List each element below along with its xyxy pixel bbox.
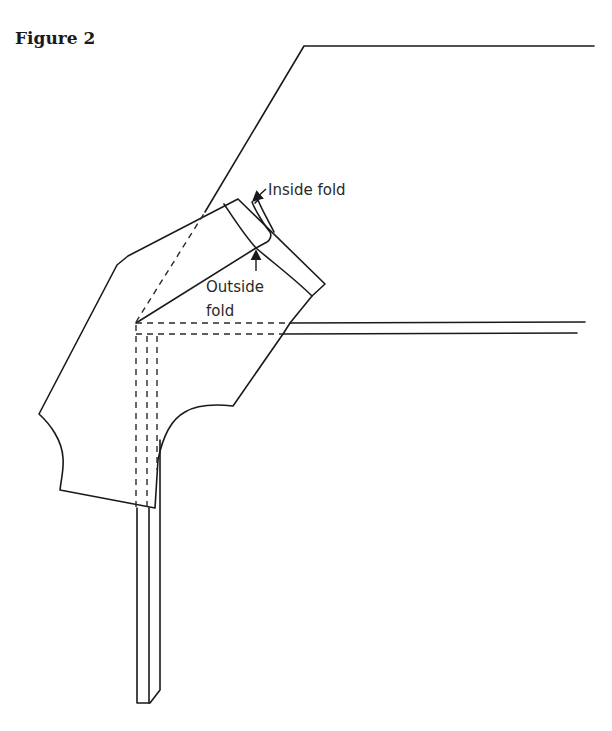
- table-corner-diagram: Inside fold Outside fold: [0, 0, 612, 731]
- inside-fold-callout: Inside fold: [254, 181, 346, 200]
- arrow-icon: [254, 189, 266, 200]
- inside-fold-label: Inside fold: [268, 181, 346, 199]
- fabric-piece: [39, 199, 325, 508]
- table-front-edge: [283, 322, 585, 334]
- table-top: [205, 46, 594, 212]
- outside-fold-callout: Outside fold: [206, 252, 264, 320]
- outside-fold-label-line2: fold: [206, 302, 234, 320]
- outside-fold-label-line1: Outside: [206, 278, 264, 296]
